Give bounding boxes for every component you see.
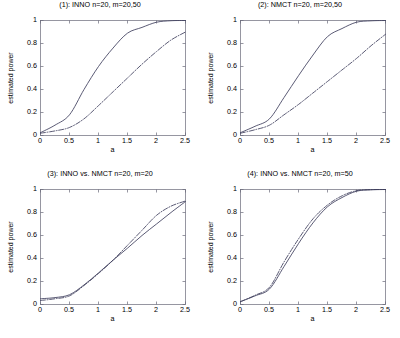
- y-tick-label: 0.6: [15, 231, 37, 239]
- y-tick-label: 0.6: [215, 62, 237, 70]
- subplot-1-axes: [40, 20, 186, 136]
- x-tick-label: 1: [86, 137, 110, 145]
- y-tick-label: 0.4: [215, 254, 237, 262]
- axes-frame: [241, 21, 386, 136]
- x-tick-label: 0.5: [57, 306, 81, 314]
- x-tick-label: 2: [144, 137, 168, 145]
- x-axis-label: a: [40, 146, 185, 154]
- x-axis-label: a: [240, 315, 385, 323]
- x-tick-label: 1: [86, 306, 110, 314]
- x-tick-label: 1.5: [315, 306, 339, 314]
- y-tick-label: 0.4: [15, 254, 37, 262]
- y-tick-label: 0.6: [215, 231, 237, 239]
- axes-frame: [41, 190, 186, 305]
- y-tick-label: 0.6: [15, 62, 37, 70]
- x-tick-label: 1.5: [115, 306, 139, 314]
- y-axis-label: estimated power: [206, 40, 216, 115]
- x-tick-label: 0.5: [57, 137, 81, 145]
- y-tick-label: 1: [15, 185, 37, 193]
- subplot-4-axes: [240, 189, 386, 305]
- y-tick-label: 1: [215, 185, 237, 193]
- subplot-4-plot-area: 00.20.40.60.8100.511.522.5aestimated pow…: [240, 189, 385, 304]
- x-axis-label: a: [40, 315, 185, 323]
- subplot-3-title: (3): INNO vs. NMCT n=20, m=20: [0, 169, 200, 178]
- y-tick-label: 0.2: [15, 277, 37, 285]
- x-tick-label: 2.5: [173, 137, 197, 145]
- subplot-3: (3): INNO vs. NMCT n=20, m=20 00.20.40.6…: [0, 169, 200, 338]
- y-tick-label: 0.2: [215, 277, 237, 285]
- series-line-2: [41, 201, 186, 300]
- y-axis-label: estimated power: [6, 40, 16, 115]
- x-tick-label: 1.5: [115, 137, 139, 145]
- x-tick-label: 0.5: [257, 137, 281, 145]
- y-tick-label: 0.8: [15, 208, 37, 216]
- y-axis-label: estimated power: [6, 209, 16, 284]
- subplot-2-plot-area: 00.20.40.60.8100.511.522.5aestimated pow…: [240, 20, 385, 135]
- subplot-4-title: (4): INNO vs. NMCT n=20, m=50: [200, 169, 400, 178]
- x-tick-label: 2: [344, 137, 368, 145]
- subplot-1-title: (1): INNO n=20, m=20,50: [0, 0, 200, 9]
- x-tick-label: 0: [28, 306, 52, 314]
- x-tick-label: 0: [228, 137, 252, 145]
- y-tick-label: 0.8: [215, 39, 237, 47]
- y-axis-label: estimated power: [206, 209, 216, 284]
- axes-frame: [41, 21, 186, 136]
- series-line-2: [241, 34, 386, 133]
- series-line-1: [41, 21, 186, 133]
- series-line-1: [41, 202, 186, 299]
- x-tick-label: 2.5: [173, 306, 197, 314]
- series-line-2: [41, 32, 186, 133]
- x-axis-label: a: [240, 146, 385, 154]
- x-tick-label: 2.5: [373, 306, 397, 314]
- subplot-2: (2): NMCT n=20, m=20,50 00.20.40.60.8100…: [200, 0, 400, 169]
- x-tick-label: 1.5: [315, 137, 339, 145]
- series-line-1: [241, 21, 386, 133]
- y-tick-label: 0.8: [215, 208, 237, 216]
- x-tick-label: 2.5: [373, 137, 397, 145]
- subplot-1: (1): INNO n=20, m=20,50 00.20.40.60.8100…: [0, 0, 200, 169]
- subplot-2-axes: [240, 20, 386, 136]
- y-tick-label: 1: [215, 16, 237, 24]
- y-tick-label: 0.2: [215, 108, 237, 116]
- series-line-2: [241, 189, 386, 301]
- x-tick-label: 0: [28, 137, 52, 145]
- subplot-2-title: (2): NMCT n=20, m=20,50: [200, 0, 400, 9]
- x-tick-label: 1: [286, 306, 310, 314]
- subplot-1-plot-area: 00.20.40.60.8100.511.522.5aestimated pow…: [40, 20, 185, 135]
- x-tick-label: 2: [144, 306, 168, 314]
- subplot-4: (4): INNO vs. NMCT n=20, m=50 00.20.40.6…: [200, 169, 400, 338]
- subplot-3-axes: [40, 189, 186, 305]
- x-tick-label: 0: [228, 306, 252, 314]
- y-tick-label: 0.4: [15, 85, 37, 93]
- axes-frame: [241, 190, 386, 305]
- x-tick-label: 1: [286, 137, 310, 145]
- y-tick-label: 0.4: [215, 85, 237, 93]
- y-tick-label: 1: [15, 16, 37, 24]
- y-tick-label: 0.2: [15, 108, 37, 116]
- figure-canvas: (1): INNO n=20, m=20,50 00.20.40.60.8100…: [0, 0, 400, 338]
- x-tick-label: 0.5: [257, 306, 281, 314]
- subplot-3-plot-area: 00.20.40.60.8100.511.522.5aestimated pow…: [40, 189, 185, 304]
- x-tick-label: 2: [344, 306, 368, 314]
- series-line-1: [241, 190, 386, 302]
- y-tick-label: 0.8: [15, 39, 37, 47]
